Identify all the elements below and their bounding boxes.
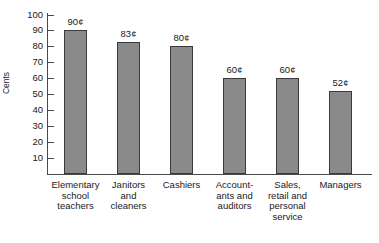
bar-value-label: 60¢ xyxy=(205,65,265,75)
y-tick-label: 90 xyxy=(13,26,43,36)
y-tick-mark xyxy=(48,94,54,95)
y-tick-label: 30 xyxy=(13,121,43,131)
y-tick: 70 xyxy=(47,62,48,63)
y-tick-label: 60 xyxy=(13,74,43,84)
y-tick-label: 100 xyxy=(13,10,43,20)
y-tick-label: 50 xyxy=(13,90,43,100)
y-tick-label: 10 xyxy=(13,153,43,163)
bar xyxy=(117,42,140,174)
bar xyxy=(64,30,87,174)
bar-value-label: 80¢ xyxy=(152,33,212,43)
bar-value-label: 83¢ xyxy=(99,29,159,39)
bar-value-label: 90¢ xyxy=(46,17,106,27)
y-tick-mark xyxy=(48,126,54,127)
y-axis-title: Cents xyxy=(1,61,11,105)
y-tick-mark xyxy=(48,158,54,159)
y-tick-label: 20 xyxy=(13,137,43,147)
y-tick-mark xyxy=(48,62,54,63)
y-tick-mark xyxy=(48,46,54,47)
y-tick-label: 40 xyxy=(13,105,43,115)
bar-chart: Cents 100908070605040302010 90¢83¢80¢60¢… xyxy=(0,0,379,243)
y-tick: 80 xyxy=(47,46,48,47)
bar-value-label: 60¢ xyxy=(258,65,318,75)
y-tick-label: 80 xyxy=(13,42,43,52)
y-tick-mark xyxy=(48,30,54,31)
y-tick-mark xyxy=(48,142,54,143)
y-tick-mark xyxy=(48,15,54,16)
bar-value-label: 52¢ xyxy=(311,78,371,88)
bar xyxy=(170,46,193,174)
x-axis-line xyxy=(47,174,372,175)
plot-area: 100908070605040302010 90¢83¢80¢60¢60¢52¢ xyxy=(47,13,372,174)
y-tick-label: 70 xyxy=(13,58,43,68)
y-tick: 10 xyxy=(47,158,48,159)
y-tick: 40 xyxy=(47,110,48,111)
x-category-label: Managers xyxy=(310,180,372,191)
y-tick: 50 xyxy=(47,94,48,95)
y-tick: 90 xyxy=(47,30,48,31)
bar xyxy=(329,91,352,174)
y-tick: 60 xyxy=(47,78,48,79)
y-tick-mark xyxy=(48,110,54,111)
y-tick: 100 xyxy=(47,15,48,16)
y-tick: 30 xyxy=(47,126,48,127)
bar xyxy=(223,78,246,174)
chart-title xyxy=(0,0,379,1)
y-tick-mark xyxy=(48,78,54,79)
y-tick: 20 xyxy=(47,142,48,143)
bar xyxy=(276,78,299,174)
